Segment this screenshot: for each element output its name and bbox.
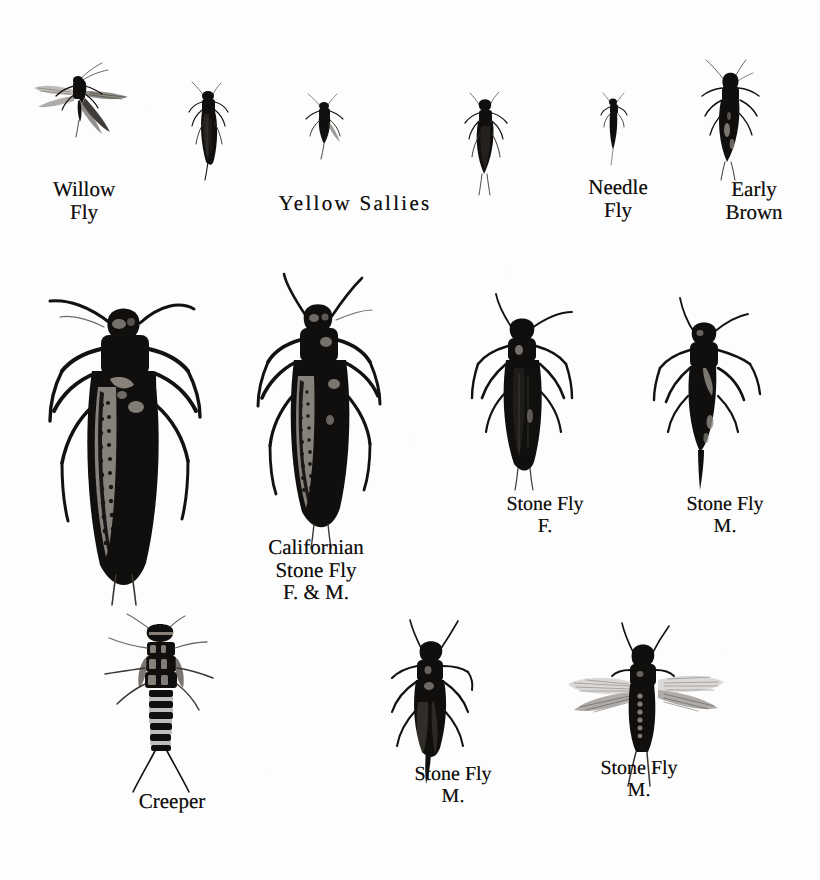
caption-stone-fly-m-bottom-right: Stone Fly M. [556, 758, 722, 801]
caption-californian-stone-fly: Californian Stone Fly F. & M. [232, 536, 400, 604]
specimen-yellow-sally-right [458, 90, 518, 200]
specimen-californian-stone-fly-female [18, 275, 228, 610]
specimen-stone-fly-female [462, 292, 592, 492]
specimen-californian-stone-fly-male [240, 272, 400, 552]
specimen-willow-fly [30, 58, 140, 148]
caption-stone-fly-m-bottom-middle: Stone Fly M. [378, 764, 528, 807]
specimen-creeper-nymph [95, 612, 245, 812]
specimen-yellow-sally-middle [300, 92, 352, 164]
caption-stone-fly-f: Stone Fly F. [470, 494, 620, 537]
caption-yellow-sallies: Yellow Sallies [225, 192, 485, 215]
stonefly-illustration-plate: Willow Fly [0, 0, 820, 880]
caption-needle-fly: Needle Fly [563, 176, 673, 221]
specimen-yellow-sally-left [182, 80, 238, 188]
caption-early-brown: Early Brown [690, 178, 818, 223]
caption-creeper: Creeper [102, 790, 242, 813]
specimen-stone-fly-male [640, 292, 780, 497]
caption-stone-fly-m-middle-row: Stone Fly M. [650, 494, 800, 537]
caption-willow-fly: Willow Fly [24, 178, 144, 223]
specimen-early-brown [692, 58, 774, 186]
specimen-needle-fly [592, 92, 636, 172]
